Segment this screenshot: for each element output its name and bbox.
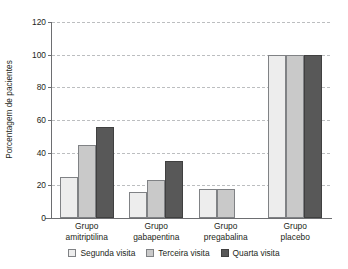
bar-group [191,22,261,218]
y-axis-tick-label: 80 [37,83,46,91]
x-axis-tick-label: Grupoplacebo [261,221,331,242]
bar-group [261,22,331,218]
bar [304,55,322,218]
legend-swatch-icon [68,249,76,257]
y-axis-title: Porcentagem de pacientes [0,0,18,218]
y-axis-tick-label: 60 [37,116,46,124]
plot-area: 020406080100120 [52,22,330,218]
bar [286,55,304,218]
chart-legend: Segunda visitaTerceira visitaQuarta visi… [0,249,348,257]
x-axis-tick-label: Grupoamitriptilina [52,221,122,242]
legend-item[interactable]: Segunda visita [68,249,135,257]
bar [96,127,114,218]
y-axis-tick-mark [48,218,52,219]
y-axis-tick-label: 100 [32,50,46,58]
bar-chart-figure: Porcentagem de pacientes 020406080100120… [0,0,348,269]
legend-label: Quarta visita [233,249,280,257]
bar [78,145,96,219]
y-axis-tick-label: 120 [32,18,46,26]
bar [199,189,217,218]
x-axis-line [45,218,332,219]
legend-item[interactable]: Terceira visita [146,249,209,257]
bar [268,55,286,218]
y-axis-tick-label: 0 [41,214,46,222]
y-axis-tick-label: 20 [37,181,46,189]
bar-group [122,22,192,218]
legend-item[interactable]: Quarta visita [221,249,280,257]
legend-swatch-icon [146,249,154,257]
legend-label: Segunda visita [80,249,135,257]
bar [147,180,165,218]
x-axis-tick-label: Grupopregabalina [191,221,261,242]
x-axis-tick-label: Grupogabapentina [122,221,192,242]
bar [217,189,235,218]
legend-swatch-icon [221,249,229,257]
bar [60,177,78,218]
bars-layer [52,22,330,218]
bar [165,161,183,218]
bar-group [52,22,122,218]
y-axis-title-text: Porcentagem de pacientes [5,60,14,159]
legend-label: Terceira visita [158,249,209,257]
x-axis-tick-labels: GrupoamitriptilinaGrupogabapentinaGrupop… [52,221,330,251]
y-axis-tick-label: 40 [37,148,46,156]
bar [129,192,147,218]
